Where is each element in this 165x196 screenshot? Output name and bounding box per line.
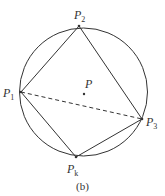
circumscribed-circle	[20, 28, 148, 156]
circle-polygon-diagram: P2 P1 P3 Pk P (b)	[0, 0, 165, 196]
label-center-p: P	[84, 77, 93, 91]
vertex-p1	[20, 91, 23, 94]
diagonal-p1-p3	[21, 92, 142, 119]
label-p1: P1	[2, 86, 14, 102]
vertex-pk	[75, 156, 78, 159]
label-p2: P2	[73, 8, 85, 24]
edge-p1-p2	[21, 26, 79, 92]
edge-p3-pk	[76, 119, 142, 157]
edge-pk-p1	[21, 92, 76, 157]
center-point-p	[83, 93, 85, 95]
vertex-p3	[141, 118, 144, 121]
label-p3: P3	[145, 115, 157, 131]
label-pk: Pk	[66, 162, 78, 178]
edge-p2-p3	[79, 26, 142, 119]
figure-caption: (b)	[76, 180, 89, 193]
vertex-p2	[78, 25, 81, 28]
